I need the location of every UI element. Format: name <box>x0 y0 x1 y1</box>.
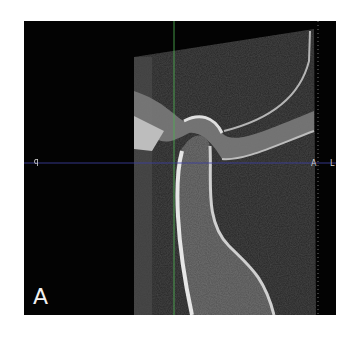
orientation-marker-far-right: L <box>330 159 334 168</box>
ct-image-panel: P A L A <box>24 21 336 315</box>
panel-label: A <box>33 284 48 309</box>
orientation-marker-right: A <box>311 159 316 168</box>
ct-scan-image <box>24 21 336 315</box>
orientation-marker-left: P <box>34 159 39 168</box>
